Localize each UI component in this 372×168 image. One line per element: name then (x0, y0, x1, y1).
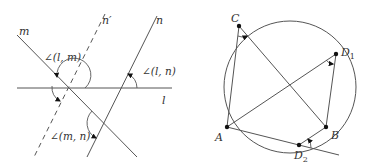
segment-CA (227, 26, 239, 127)
segment-CB (239, 26, 326, 127)
point-D1 (334, 52, 338, 56)
segment-AD2-extended (227, 127, 339, 155)
angle-D1-arc-icon (326, 60, 333, 64)
diagram-canvas: m n′ n l ∠(l, m) ∠(l, n) ∠(m, n) C D1 A … (0, 0, 372, 168)
angle-ln-arc-icon (128, 74, 137, 88)
segment-D1B (326, 54, 336, 127)
label-angle-mn: ∠(m, n) (50, 130, 90, 142)
label-l: l (162, 94, 166, 107)
angle-D2-arc-icon (308, 139, 311, 148)
label-C: C (231, 12, 240, 25)
label-n: n (156, 14, 163, 27)
point-A (225, 125, 229, 129)
label-angle-ln: ∠(l, n) (142, 65, 176, 77)
right-figure-inscribed-angles: C D1 A B D2 (214, 12, 356, 164)
angle-C-arc-icon (238, 36, 247, 37)
point-D2 (297, 143, 301, 147)
label-n-prime: n′ (102, 14, 112, 27)
label-A: A (214, 131, 223, 144)
segment-D2B (299, 127, 326, 145)
label-D1: D1 (340, 46, 355, 61)
left-figure-oriented-angles: m n′ n l ∠(l, m) ∠(l, n) ∠(m, n) (17, 14, 176, 157)
label-B: B (330, 129, 339, 142)
segment-AD1 (227, 54, 336, 127)
label-m: m (19, 25, 29, 38)
line-n (87, 16, 157, 157)
label-angle-lm: ∠(l, m) (44, 51, 81, 63)
point-B (324, 125, 328, 129)
